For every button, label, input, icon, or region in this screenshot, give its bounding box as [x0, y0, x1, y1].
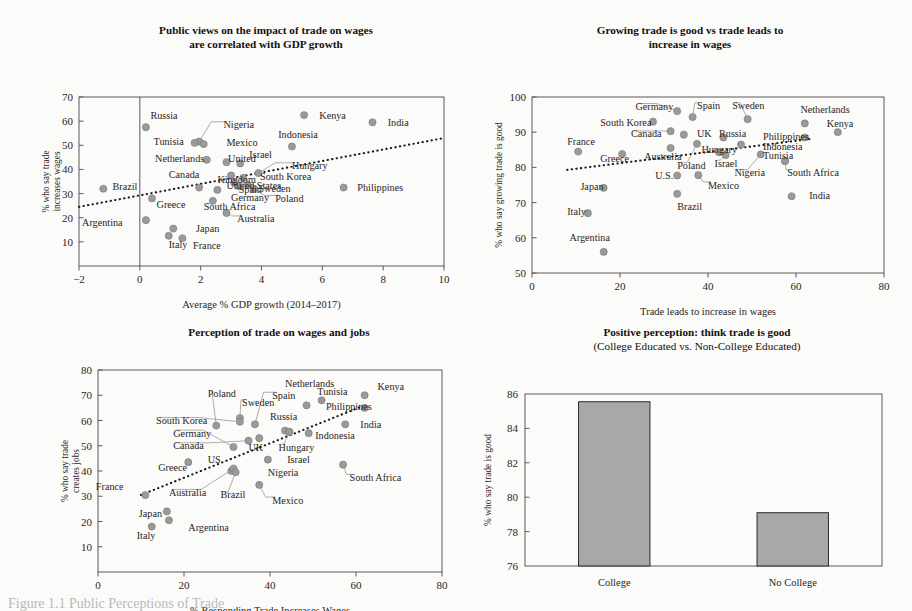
data-point[interactable] — [667, 128, 674, 135]
point-label: Poland — [208, 388, 236, 399]
panel4-plot: 767880828486CollegeNo College% who say t… — [462, 353, 912, 603]
data-point[interactable] — [230, 443, 237, 450]
data-point[interactable] — [264, 456, 271, 463]
data-point[interactable] — [163, 507, 170, 514]
data-point[interactable] — [213, 421, 220, 428]
data-point[interactable] — [575, 148, 582, 155]
point-label: Brazil — [221, 489, 246, 500]
x-tick-label: 10 — [439, 273, 451, 285]
y-tick-label: 78 — [507, 526, 519, 538]
data-point[interactable] — [286, 428, 293, 435]
y-tick-label: 30 — [62, 188, 74, 200]
point-label: Brazil — [677, 201, 702, 212]
data-point[interactable] — [788, 193, 795, 200]
figure-sheet: Public views on the impact of trade on w… — [0, 0, 912, 611]
panel-gdp-growth-vs-wages: Public views on the impact of trade on w… — [52, 24, 452, 304]
panel1-title-line2: are correlated with GDP growth — [80, 38, 452, 52]
data-point[interactable] — [142, 217, 149, 224]
data-point[interactable] — [689, 113, 696, 120]
point-label: Argentina — [188, 522, 229, 533]
data-point[interactable] — [214, 186, 221, 193]
data-point[interactable] — [191, 139, 198, 146]
y-tick-label: 90 — [515, 126, 527, 138]
data-point[interactable] — [600, 248, 607, 255]
data-point[interactable] — [674, 107, 681, 114]
data-point[interactable] — [342, 420, 349, 427]
data-point[interactable] — [318, 396, 325, 403]
x-tick-label: 40 — [703, 280, 715, 292]
x-tick-label: 4 — [259, 273, 265, 285]
data-point[interactable] — [834, 129, 841, 136]
data-point[interactable] — [674, 172, 681, 179]
point-label: Nigeria — [223, 119, 254, 130]
data-point[interactable] — [369, 119, 376, 126]
data-point[interactable] — [142, 124, 149, 131]
data-point[interactable] — [236, 418, 243, 425]
data-point[interactable] — [737, 141, 744, 148]
y-axis-label: increases wages — [52, 151, 62, 211]
data-point[interactable] — [695, 172, 702, 179]
point-label: Japan — [196, 223, 219, 234]
data-point[interactable] — [196, 184, 203, 191]
bar-category-label: No College — [769, 577, 817, 588]
point-label: Russia — [270, 411, 298, 422]
y-tick-label: 80 — [81, 364, 93, 376]
panel2-title-line2: increase in wages — [498, 38, 882, 52]
bar[interactable] — [757, 513, 828, 566]
data-point[interactable] — [142, 491, 149, 498]
data-point[interactable] — [232, 468, 239, 475]
point-label: Kenya — [378, 380, 405, 391]
point-label: Netherlands — [155, 153, 204, 164]
point-label: Tunisia — [763, 150, 794, 161]
x-tick-label: 60 — [791, 280, 803, 292]
y-tick-label: 70 — [81, 389, 93, 401]
y-tick-label: 86 — [507, 388, 519, 400]
y-tick-label: 70 — [62, 91, 74, 103]
panel-growing-trade-good: Growing trade is good vs trade leads to … — [462, 24, 912, 314]
data-point[interactable] — [148, 195, 155, 202]
panel2-plot: 0204060805060708090100GermanySpainSweden… — [462, 51, 912, 309]
data-point[interactable] — [801, 120, 808, 127]
point-label: Russia — [150, 110, 178, 121]
x-tick-label: 0 — [137, 273, 143, 285]
data-point[interactable] — [165, 516, 172, 523]
data-point[interactable] — [303, 401, 310, 408]
point-label: Nigeria — [734, 167, 765, 178]
point-label: France — [567, 136, 595, 147]
point-label: Italy — [169, 239, 189, 250]
point-label: Hungary — [292, 160, 329, 171]
data-point[interactable] — [256, 481, 263, 488]
data-point[interactable] — [200, 140, 207, 147]
data-point[interactable] — [288, 143, 295, 150]
y-axis-label: % who say trade is good — [483, 434, 493, 526]
data-point[interactable] — [340, 184, 347, 191]
panel1-title-line1: Public views on the impact of trade on w… — [80, 24, 452, 38]
data-point[interactable] — [361, 391, 368, 398]
point-label: France — [193, 240, 221, 251]
data-point[interactable] — [674, 190, 681, 197]
point-label: Greece — [600, 153, 629, 164]
point-label: Japan — [139, 508, 162, 519]
point-label: Australia — [169, 486, 207, 497]
point-label: Poland — [677, 160, 705, 171]
panel4-title-line1: Positive perception: think trade is good — [502, 326, 892, 340]
data-point[interactable] — [340, 461, 347, 468]
panel3-title: Perception of trade on wages and jobs — [52, 326, 472, 340]
data-point[interactable] — [305, 429, 312, 436]
point-label: Indonesia — [315, 430, 355, 441]
data-point[interactable] — [170, 225, 177, 232]
x-axis-label: Average % GDP growth (2014–2017) — [182, 299, 341, 311]
data-point[interactable] — [693, 140, 700, 147]
panel1-plot: −2024681010203040506070RussiaKenyaIndiaN… — [52, 51, 452, 301]
point-label: UK — [249, 441, 264, 452]
data-point[interactable] — [100, 185, 107, 192]
data-point[interactable] — [744, 116, 751, 123]
point-label: Israel — [249, 149, 272, 160]
y-tick-label: 100 — [510, 91, 527, 103]
data-point[interactable] — [680, 131, 687, 138]
bar[interactable] — [579, 402, 650, 566]
point-label: Israel — [287, 454, 310, 465]
data-point[interactable] — [251, 420, 258, 427]
y-tick-label: 76 — [507, 560, 519, 572]
data-point[interactable] — [300, 112, 307, 119]
